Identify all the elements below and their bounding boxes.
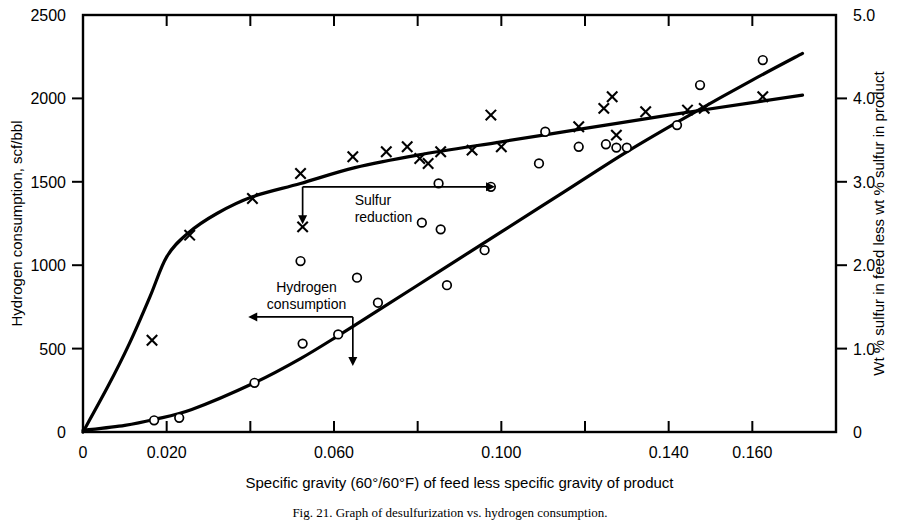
svg-text:Sulfur: Sulfur xyxy=(355,192,392,208)
svg-text:0.160: 0.160 xyxy=(732,444,772,461)
svg-text:Wt % sulfur in feed less wt %: Wt % sulfur in feed less wt % sulfur in … xyxy=(870,71,887,376)
svg-text:0.100: 0.100 xyxy=(481,444,521,461)
svg-text:500: 500 xyxy=(39,341,66,358)
svg-text:Specific gravity (60°/60°F) of: Specific gravity (60°/60°F) of feed less… xyxy=(245,474,674,491)
svg-text:0: 0 xyxy=(853,424,862,441)
svg-text:reduction: reduction xyxy=(355,209,413,225)
svg-text:0.140: 0.140 xyxy=(649,444,689,461)
figure-panel: 00.0200.0600.1000.1400.160 0500100015002… xyxy=(0,0,900,523)
svg-text:consumption: consumption xyxy=(267,296,346,312)
figure-caption: Fig. 21. Graph of desulfurization vs. hy… xyxy=(0,505,900,523)
svg-text:1000: 1000 xyxy=(30,257,66,274)
svg-text:0.060: 0.060 xyxy=(314,444,354,461)
svg-text:0: 0 xyxy=(79,444,88,461)
svg-text:0: 0 xyxy=(57,424,66,441)
svg-text:Hydrogen: Hydrogen xyxy=(276,279,337,295)
chart-canvas: 00.0200.0600.1000.1400.160 0500100015002… xyxy=(0,0,900,500)
svg-text:2500: 2500 xyxy=(30,7,66,24)
svg-text:1500: 1500 xyxy=(30,174,66,191)
left-axis-ticks: 05001000150020002500 xyxy=(30,7,83,441)
plot-frame xyxy=(83,15,836,432)
chart-annotations: SulfurreductionHydrogenconsumption xyxy=(248,182,495,366)
svg-text:0.020: 0.020 xyxy=(147,444,187,461)
svg-text:2000: 2000 xyxy=(30,90,66,107)
svg-text:Hydrogen consumption, scf/bbl: Hydrogen consumption, scf/bbl xyxy=(8,121,25,327)
data-markers xyxy=(147,56,768,425)
trend-curves xyxy=(83,53,803,432)
svg-text:5.0: 5.0 xyxy=(853,7,875,24)
